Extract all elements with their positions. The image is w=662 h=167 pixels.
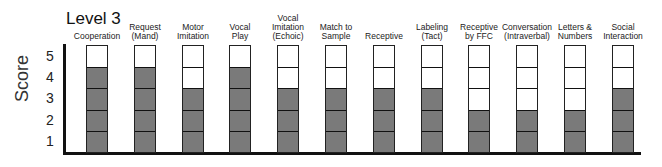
empty-segment (278, 46, 298, 67)
empty-segment (183, 67, 203, 88)
empty-segment (469, 88, 489, 109)
filled-segment (87, 67, 107, 88)
filled-segment (230, 110, 250, 131)
filled-segment (230, 131, 250, 152)
score-bar (612, 45, 634, 153)
score-bar (468, 45, 490, 153)
empty-segment (469, 67, 489, 88)
empty-segment (135, 46, 155, 67)
filled-segment (183, 131, 203, 152)
filled-segment (422, 88, 442, 109)
y-axis-label: Score (12, 55, 33, 102)
y-tick-label: 1 (43, 133, 57, 149)
y-axis (63, 44, 66, 154)
filled-segment (422, 131, 442, 152)
empty-segment (517, 46, 537, 67)
filled-segment (374, 110, 394, 131)
filled-segment (278, 110, 298, 131)
filled-segment (374, 131, 394, 152)
empty-segment (565, 46, 585, 67)
category-label: SocialInteraction (588, 23, 658, 41)
filled-segment (230, 88, 250, 109)
filled-segment (469, 131, 489, 152)
filled-segment (135, 131, 155, 152)
filled-segment (135, 88, 155, 109)
filled-segment (87, 131, 107, 152)
filled-segment (613, 110, 633, 131)
empty-segment (422, 67, 442, 88)
score-bar (564, 45, 586, 153)
empty-segment (326, 46, 346, 67)
empty-segment (565, 88, 585, 109)
filled-segment (87, 88, 107, 109)
score-bar (86, 45, 108, 153)
y-tick-label: 5 (43, 48, 57, 64)
filled-segment (135, 67, 155, 88)
filled-segment (517, 131, 537, 152)
empty-segment (613, 67, 633, 88)
filled-segment (278, 88, 298, 109)
score-bar (229, 45, 251, 153)
score-bar (182, 45, 204, 153)
empty-segment (374, 46, 394, 67)
empty-segment (183, 46, 203, 67)
y-tick-label: 3 (43, 90, 57, 106)
filled-segment (326, 131, 346, 152)
score-bar (325, 45, 347, 153)
score-bar (373, 45, 395, 153)
empty-segment (422, 46, 442, 67)
filled-segment (613, 88, 633, 109)
score-bar (277, 45, 299, 153)
filled-segment (87, 110, 107, 131)
empty-segment (517, 67, 537, 88)
y-tick-label: 4 (43, 69, 57, 85)
empty-segment (87, 46, 107, 67)
empty-segment (326, 67, 346, 88)
filled-segment (278, 131, 298, 152)
filled-segment (565, 131, 585, 152)
score-bar (516, 45, 538, 153)
filled-segment (326, 110, 346, 131)
filled-segment (230, 67, 250, 88)
score-bar (134, 45, 156, 153)
filled-segment (517, 110, 537, 131)
empty-segment (517, 88, 537, 109)
y-tick-label: 2 (43, 112, 57, 128)
filled-segment (326, 88, 346, 109)
filled-segment (469, 110, 489, 131)
filled-segment (374, 88, 394, 109)
empty-segment (230, 46, 250, 67)
filled-segment (183, 88, 203, 109)
empty-segment (613, 46, 633, 67)
empty-segment (565, 67, 585, 88)
empty-segment (469, 46, 489, 67)
filled-segment (422, 110, 442, 131)
score-bar (421, 45, 443, 153)
filled-segment (183, 110, 203, 131)
filled-segment (135, 110, 155, 131)
filled-segment (565, 110, 585, 131)
empty-segment (278, 67, 298, 88)
empty-segment (374, 67, 394, 88)
filled-segment (613, 131, 633, 152)
